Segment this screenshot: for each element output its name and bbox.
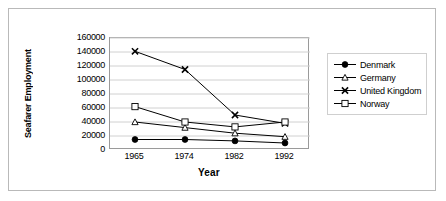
y-tick-label: 140000 (77, 46, 105, 56)
series-lines (109, 37, 311, 151)
x-tick-label: 1974 (175, 151, 194, 161)
y-axis-title: Seafarer Employment (20, 31, 36, 157)
series-united-kingdom (132, 48, 288, 126)
x-tick-label: 1992 (275, 151, 294, 161)
x-tick-label: 1982 (225, 151, 244, 161)
y-tick-label: 0 (100, 144, 105, 154)
x-axis-title: Year (109, 167, 309, 178)
legend-label: Denmark (357, 60, 395, 70)
legend-label: United Kingdom (357, 86, 421, 96)
plot-area (109, 37, 309, 149)
legend-label: Norway (357, 99, 389, 109)
legend-marker-icon (333, 85, 357, 96)
y-tick-label: 80000 (81, 88, 105, 98)
y-axis-tick-labels: 1600001400001200001000008000060000400002… (37, 9, 105, 201)
y-tick-label: 60000 (81, 102, 105, 112)
legend-marker-icon (333, 98, 357, 109)
legend-item-united-kingdom: United Kingdom (333, 84, 421, 97)
y-tick-label: 40000 (81, 116, 105, 126)
series-norway (132, 104, 288, 131)
legend-label: Germany (357, 73, 396, 83)
series-denmark (132, 137, 288, 146)
y-tick-label: 160000 (77, 32, 105, 42)
legend-marker-icon (333, 72, 357, 83)
legend-item-norway: Norway (333, 97, 421, 110)
y-tick-label: 100000 (77, 74, 105, 84)
y-tick-label: 120000 (77, 60, 105, 70)
legend-item-denmark: Denmark (333, 58, 421, 71)
chart-legend: DenmarkGermanyUnited KingdomNorway (327, 53, 427, 115)
chart-frame: Seafarer Employment 16000014000012000010… (8, 8, 436, 191)
legend-marker-icon (333, 59, 357, 70)
x-tick-label: 1965 (125, 151, 144, 161)
legend-item-germany: Germany (333, 71, 421, 84)
y-tick-label: 20000 (81, 130, 105, 140)
